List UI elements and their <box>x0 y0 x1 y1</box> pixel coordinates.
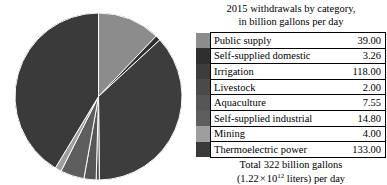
legend-title-line-1: 2015 withdrawals by category, <box>195 2 387 15</box>
water-withdrawals-figure: 2015 withdrawals by category, in billion… <box>0 0 387 184</box>
legend-footer-prefix: (1.22 <box>237 173 259 184</box>
legend-category-value: 14.80 <box>337 110 386 126</box>
legend-category-value: 118.00 <box>337 64 386 80</box>
legend-category-label: Livestock <box>211 79 338 95</box>
legend-category-value: 2.00 <box>337 79 386 95</box>
legend-category-value: 133.00 <box>337 142 386 158</box>
legend-row: Mining4.00 <box>196 126 386 142</box>
legend-category-value: 7.55 <box>337 95 386 111</box>
pie-chart <box>0 0 195 184</box>
legend-swatch-cell <box>196 64 211 80</box>
legend-table-wrapper: Public supply39.00Self-supplied domestic… <box>196 32 386 158</box>
legend-color-swatch <box>196 79 210 95</box>
legend-color-swatch <box>196 64 210 80</box>
legend-color-swatch <box>196 110 210 126</box>
legend-category-label: Irrigation <box>211 64 338 80</box>
legend-swatch-cell <box>196 110 211 126</box>
legend-swatch-cell <box>196 48 211 64</box>
legend-category-label: Mining <box>211 126 338 142</box>
legend-swatch-cell <box>196 142 211 158</box>
pie-slices <box>15 13 182 180</box>
legend-panel: 2015 withdrawals by category, in billion… <box>195 0 387 184</box>
legend-title-line-2: in billion gallons per day <box>195 15 387 28</box>
legend-category-label: Public supply <box>211 33 338 49</box>
legend-row: Irrigation118.00 <box>196 64 386 80</box>
legend-footer-base: 10 <box>267 173 278 184</box>
legend-color-swatch <box>196 33 210 49</box>
legend-category-value: 39.00 <box>337 33 386 49</box>
legend-color-swatch <box>196 95 210 111</box>
legend-category-label: Self-supplied industrial <box>211 110 338 126</box>
legend-title: 2015 withdrawals by category, in billion… <box>195 2 387 28</box>
legend-table: Public supply39.00Self-supplied domestic… <box>196 32 386 158</box>
legend-row: Self-supplied domestic3.26 <box>196 48 386 64</box>
legend-footer: Total 322 billion gallons (1.22×1012 lit… <box>195 158 387 184</box>
legend-color-swatch <box>196 48 210 64</box>
legend-color-swatch <box>196 142 210 158</box>
legend-swatch-cell <box>196 79 211 95</box>
legend-category-label: Self-supplied domestic <box>211 48 338 64</box>
legend-row: Public supply39.00 <box>196 33 386 49</box>
legend-category-value: 3.26 <box>337 48 386 64</box>
legend-category-value: 4.00 <box>337 126 386 142</box>
legend-category-label: Thermoelectric power <box>211 142 338 158</box>
legend-footer-total: Total 322 billion gallons <box>195 158 387 172</box>
legend-swatch-cell <box>196 126 211 142</box>
legend-row: Thermoelectric power133.00 <box>196 142 386 158</box>
legend-swatch-cell <box>196 95 211 111</box>
legend-row: Livestock2.00 <box>196 79 386 95</box>
legend-footer-exponent: 12 <box>277 171 284 179</box>
legend-row: Self-supplied industrial14.80 <box>196 110 386 126</box>
legend-footer-liters: (1.22×1012 liters) per day <box>195 172 387 185</box>
multiplication-sign: × <box>259 173 267 184</box>
legend-table-body: Public supply39.00Self-supplied domestic… <box>196 33 386 158</box>
legend-color-swatch <box>196 126 210 142</box>
legend-swatch-cell <box>196 33 211 49</box>
legend-category-label: Aquaculture <box>211 95 338 111</box>
legend-row: Aquaculture7.55 <box>196 95 386 111</box>
legend-footer-suffix: liters) per day <box>287 173 345 184</box>
pie-chart-panel <box>0 0 195 184</box>
